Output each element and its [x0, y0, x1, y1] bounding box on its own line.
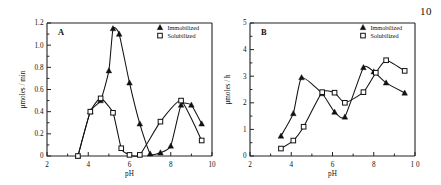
open-square-marker — [301, 124, 306, 129]
open-square-marker — [138, 153, 143, 158]
axis-lines — [250, 23, 415, 156]
y-tick-label: 0.2 — [35, 130, 44, 138]
y-tick-label: 5 — [243, 19, 247, 27]
x-tick-label: 6 — [331, 161, 335, 169]
filled-triangle-marker — [137, 121, 143, 126]
filled-triangle-marker — [116, 31, 122, 36]
plot-frame — [47, 23, 212, 156]
plot-root: 00.20.40.60.81.01.2246810pHμmoles / minA… — [19, 19, 216, 178]
series-immobilized — [75, 26, 204, 159]
open-square-marker — [343, 101, 348, 106]
open-square-marker — [98, 96, 103, 101]
open-square-marker — [374, 70, 379, 75]
open-square-marker — [119, 146, 124, 151]
open-square-marker — [127, 153, 132, 158]
legend-label: Solubilized — [371, 32, 400, 39]
plot-frame — [250, 23, 415, 156]
panel-letter: A — [58, 28, 64, 37]
filled-triangle-marker — [402, 90, 408, 95]
y-tick-label: 0 — [40, 152, 44, 160]
chart-a-svg: 00.20.40.60.81.01.2246810pHμmoles / minA… — [0, 0, 221, 185]
filled-triangle-marker — [189, 102, 195, 107]
y-tick-label: 3 — [243, 73, 247, 81]
y-axis-ticks: 00.20.40.60.81.01.2 — [35, 19, 51, 160]
filled-triangle-marker — [290, 110, 296, 115]
open-square-marker — [320, 90, 325, 95]
y-tick-label: 1 — [243, 126, 247, 134]
filled-triangle-marker — [127, 80, 133, 85]
axis-lines — [47, 23, 212, 156]
y-tick-label: 1.2 — [35, 19, 44, 27]
open-square-marker — [384, 58, 389, 63]
open-square-marker — [158, 119, 163, 124]
x-axis-title: pH — [125, 170, 134, 178]
filled-triangle-marker — [168, 143, 174, 148]
y-tick-label: 4 — [243, 46, 247, 54]
x-tick-label: 8 — [169, 161, 173, 169]
open-square-marker — [199, 138, 204, 143]
series-solubilized — [279, 58, 407, 151]
series-solubilized — [76, 96, 204, 158]
x-tick-label: 10 — [208, 161, 216, 169]
filled-triangle-marker — [199, 121, 205, 126]
x-axis-title: pH — [328, 170, 337, 178]
open-square-marker — [402, 69, 407, 74]
filled-triangle-marker — [342, 114, 348, 119]
legend-filled-triangle-icon — [360, 24, 366, 29]
legend-open-square-icon — [158, 33, 163, 38]
y-tick-label: 0 — [243, 152, 247, 160]
filled-triangle-marker — [361, 64, 367, 69]
open-square-marker — [76, 154, 81, 159]
x-tick-label: 2 — [45, 161, 49, 169]
y-axis-title-group: μmoles / h — [224, 74, 232, 105]
filled-triangle-marker — [147, 151, 153, 156]
legend-label: Immobilized — [371, 24, 404, 31]
open-square-marker — [111, 110, 116, 115]
y-tick-label: 2 — [243, 99, 247, 107]
y-axis-title-group: μmoles / min — [19, 70, 27, 108]
x-tick-label: 4 — [86, 161, 90, 169]
x-tick-label: 6 — [128, 161, 132, 169]
open-square-marker — [179, 98, 184, 103]
legend: ImmobilizedSolubilized — [360, 24, 403, 39]
figure-container: 00.20.40.60.81.01.2246810pHμmoles / minA… — [0, 0, 441, 185]
y-axis-ticks: 012345 — [243, 19, 254, 160]
chart-panel-b: 01234524681 0pHμmoles / hBImmobilizedSol… — [220, 0, 441, 185]
open-square-marker — [361, 90, 366, 95]
x-tick-label: 1 0 — [411, 161, 420, 169]
x-tick-label: 8 — [372, 161, 376, 169]
open-square-marker — [88, 109, 93, 114]
panel-letter: B — [261, 28, 267, 37]
legend-label: Immobilized — [168, 24, 201, 31]
y-tick-label: 0.6 — [35, 86, 44, 94]
chart-panel-a: 00.20.40.60.81.01.2246810pHμmoles / minA… — [0, 0, 221, 185]
y-tick-label: 0.4 — [35, 108, 44, 116]
filled-triangle-marker — [278, 133, 284, 138]
chart-b-svg: 01234524681 0pHμmoles / hBImmobilizedSol… — [220, 0, 441, 185]
y-axis-title: μmoles / min — [19, 70, 27, 108]
filled-triangle-marker — [299, 75, 305, 80]
x-tick-label: 2 — [248, 161, 252, 169]
plot-root: 01234524681 0pHμmoles / hBImmobilizedSol… — [224, 19, 420, 178]
series-line-immobilized — [78, 27, 202, 156]
x-tick-label: 4 — [289, 161, 293, 169]
x-axis-ticks: 24681 0 — [248, 152, 420, 169]
page-number: 10 — [420, 5, 432, 17]
open-square-marker — [291, 138, 296, 143]
open-square-marker — [332, 90, 337, 95]
y-axis-title: μmoles / h — [224, 74, 232, 105]
legend-open-square-icon — [361, 33, 366, 38]
legend-filled-triangle-icon — [157, 24, 163, 29]
open-square-marker — [279, 146, 284, 151]
y-tick-label: 0.8 — [35, 64, 44, 72]
filled-triangle-marker — [106, 68, 112, 73]
y-tick-label: 1.0 — [35, 42, 44, 50]
legend: ImmobilizedSolubilized — [157, 24, 200, 39]
legend-label: Solubilized — [168, 32, 197, 39]
